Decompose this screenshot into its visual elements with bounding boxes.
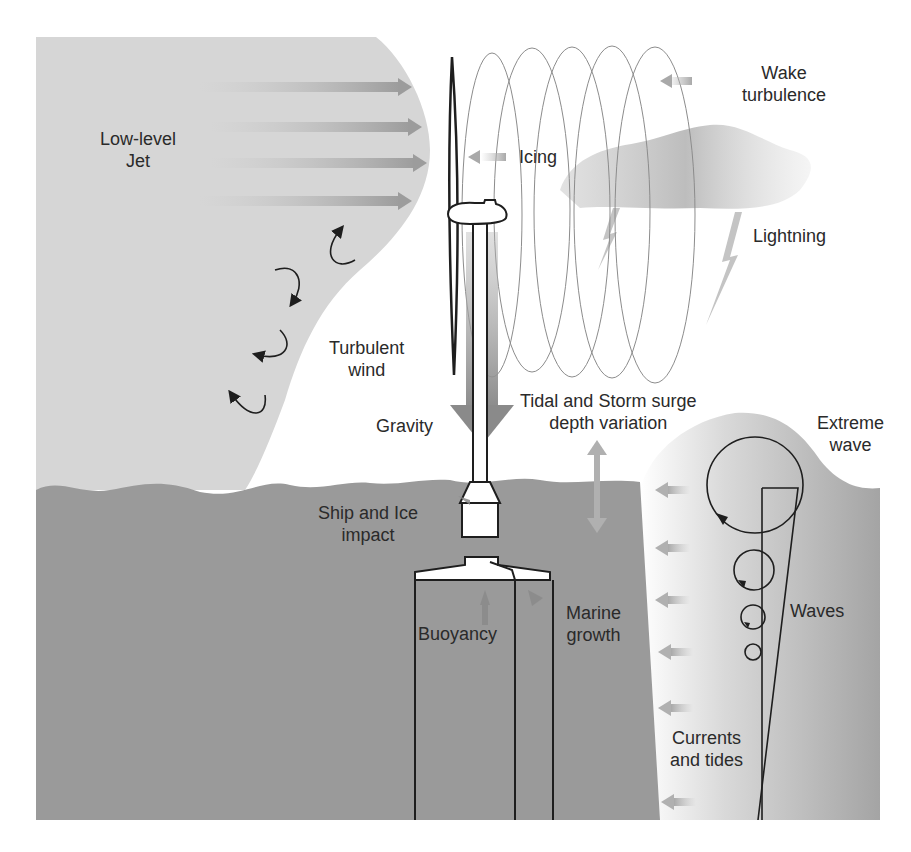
label-tidal-surge: Tidal and Storm surge depth variation [520,390,696,434]
label-waves: Waves [790,600,844,622]
label-line: Extreme [817,412,884,434]
label-line: wave [817,434,884,456]
label-line: Marine [566,602,621,624]
label-line: impact [318,524,418,546]
label-wake-turbulence: Wake turbulence [742,62,826,106]
label-line: Gravity [376,416,433,436]
nacelle [448,200,507,224]
label-turbulent-wind: Turbulent wind [329,337,404,381]
label-gravity: Gravity [376,415,433,437]
label-line: Icing [519,147,557,167]
label-ship-ice-impact: Ship and Ice impact [318,502,418,546]
label-line: Wake [742,62,826,84]
label-line: Jet [100,150,176,172]
label-line: growth [566,624,621,646]
label-marine-growth: Marine growth [566,602,621,646]
label-line: Ship and Ice [318,502,418,524]
label-line: Buoyancy [418,624,497,644]
storm-cloud [560,125,811,209]
label-line: Lightning [753,226,826,246]
label-line: turbulence [742,84,826,106]
label-line: Tidal and Storm surge [520,390,696,412]
label-line: Currents [670,727,743,749]
label-extreme-wave: Extreme wave [817,412,884,456]
low-level-jet-region [36,37,430,490]
label-icing: Icing [519,146,557,168]
label-line: wind [329,359,404,381]
label-line: and tides [670,749,743,771]
lightning-bolts [598,208,742,325]
icing-arrow [481,153,506,161]
label-line: depth variation [520,412,696,434]
label-line: Turbulent [329,337,404,359]
label-currents-tides: Currents and tides [670,727,743,771]
label-low-level-jet: Low-level Jet [100,128,176,172]
label-line: Low-level [100,128,176,150]
label-line: Waves [790,601,844,621]
label-lightning: Lightning [753,225,826,247]
label-buoyancy: Buoyancy [418,623,497,645]
